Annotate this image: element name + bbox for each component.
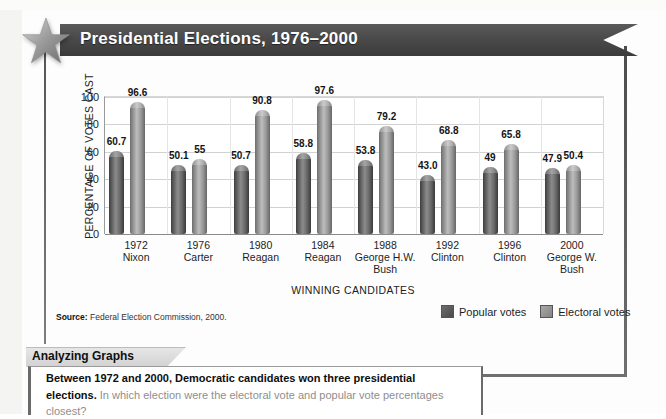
bar-value-label: 58.8	[294, 138, 313, 149]
x-axis-title: WINNING CANDIDATES	[104, 284, 602, 296]
bar-value-label: 43.0	[418, 160, 437, 171]
scan-edge-left	[0, 0, 22, 414]
page-rule-right	[624, 46, 627, 376]
bar-popular-votes	[296, 153, 311, 234]
bar-electoral-votes	[441, 140, 456, 234]
y-axis-tick: 40	[87, 173, 99, 185]
bar-popular-votes	[483, 167, 498, 234]
bar-value-label: 49	[484, 152, 495, 163]
bar-value-label: 97.6	[315, 85, 334, 96]
legend-swatch	[540, 305, 553, 318]
bar-group: 60.796.61972Nixon	[105, 97, 167, 234]
legend-swatch	[441, 305, 454, 318]
analyzing-graphs-question: In which election were the electoral vot…	[46, 389, 443, 418]
bar-popular-votes	[171, 165, 186, 234]
bar-electoral-votes	[192, 159, 207, 234]
analyzing-graphs-text: Between 1972 and 2000, Democratic candid…	[46, 370, 466, 419]
bar-electoral-votes	[379, 126, 394, 235]
bar-group: 53.879.21988George H.W. Bush	[354, 97, 416, 234]
bar-value-label: 50.7	[231, 150, 250, 161]
page-title: Presidential Elections, 1976–2000	[80, 29, 358, 49]
scan-edge-top	[0, 0, 666, 10]
bar-group: 50.790.81980Reagan	[230, 97, 292, 234]
analyzing-graphs-title: Analyzing Graphs	[32, 349, 134, 363]
x-axis-year: 2000	[535, 239, 609, 251]
bar-value-label: 79.2	[377, 111, 396, 122]
y-axis-tick: 80	[87, 118, 99, 130]
chart-legend: Popular votesElectoral votes	[441, 305, 630, 318]
bar-value-label: 47.9	[543, 153, 562, 164]
y-axis-tick: 20	[87, 201, 99, 213]
bar-electoral-votes	[255, 110, 270, 234]
bar-value-label: 50.4	[564, 150, 583, 161]
bar-electoral-votes	[130, 102, 145, 234]
bar-popular-votes	[234, 165, 249, 234]
legend-label: Electoral votes	[558, 306, 630, 318]
bar-group: 43.068.81992Clinton	[416, 97, 478, 234]
bar-value-label: 96.6	[128, 87, 147, 98]
bar-popular-votes	[420, 175, 435, 234]
bar-group: 4965.81996Clinton	[479, 97, 541, 234]
source-note: Source: Federal Election Commission, 200…	[56, 312, 227, 322]
gridline	[105, 234, 603, 235]
bar-value-label: 68.8	[439, 125, 458, 136]
source-text: Federal Election Commission, 2000.	[90, 312, 227, 322]
legend-item: Electoral votes	[540, 305, 630, 318]
bar-value-label: 65.8	[501, 129, 520, 140]
legend-label: Popular votes	[459, 306, 526, 318]
y-axis-tick: 0	[93, 228, 99, 240]
y-axis-tick: 60	[87, 146, 99, 158]
bar-electoral-votes	[317, 100, 332, 234]
bar-group: 50.1551976Carter	[167, 97, 229, 234]
bar-value-label: 60.7	[107, 136, 126, 147]
x-axis-candidate: George W. Bush	[535, 251, 609, 275]
source-label: Source:	[56, 312, 88, 322]
y-axis-tick: 100	[81, 91, 99, 103]
bar-electoral-votes	[566, 165, 581, 234]
plot-area: 02040608010060.796.61972Nixon50.1551976C…	[104, 96, 604, 234]
bar-value-label: 53.8	[356, 145, 375, 156]
legend-item: Popular votes	[441, 305, 526, 318]
bar-popular-votes	[109, 151, 124, 234]
bar-value-label: 90.8	[252, 95, 271, 106]
bar-popular-votes	[358, 160, 373, 234]
bar-value-label: 50.1	[169, 150, 188, 161]
bar-electoral-votes	[504, 144, 519, 234]
bar-group: 58.897.61984Reagan	[292, 97, 354, 234]
star-icon	[20, 16, 72, 68]
bar-group: 47.950.42000George W. Bush	[541, 97, 603, 234]
bar-popular-votes	[545, 168, 560, 234]
chart-container: PERCENTAGE OF VOTES CAST 02040608010060.…	[46, 78, 622, 298]
x-axis-tick: 2000George W. Bush	[535, 239, 609, 275]
bar-value-label: 55	[194, 144, 205, 155]
